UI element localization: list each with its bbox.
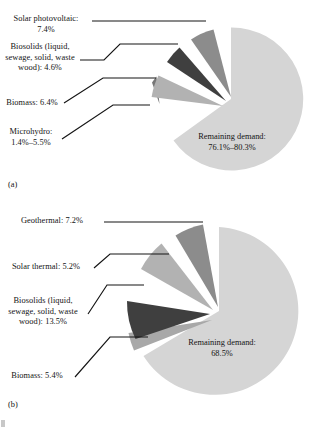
label-b-biomass: Biomass: 5.4% [2, 371, 72, 382]
pie-chart-panel-b: Geothermal: 7.2% Solar thermal: 5.2% Bio… [0, 196, 331, 427]
panel-tag-a: (a) [8, 180, 17, 189]
pie-chart-panel-a: Solar photovoltaic: 7.4% Biosolids (liqu… [0, 0, 331, 205]
label-a-remaining-demand: Remaining demand: 76.1%–80.3% [179, 132, 285, 153]
label-a-microhydro: Microhydro: 1.4%–5.5% [2, 127, 60, 148]
scan-artifact [1, 420, 5, 427]
panel-tag-b: (b) [8, 400, 18, 409]
label-b-geothermal: Geothermal: 7.2% [2, 216, 102, 227]
label-b-remaining-demand: Remaining demand: 68.5% [168, 338, 276, 359]
label-a-biomass: Biomass: 6.4% [2, 98, 62, 109]
label-a-solar-photovoltaic: Solar photovoltaic: 7.4% [2, 14, 90, 35]
label-b-biosolids: Biosolids (liquid, sewage, solid, waste … [2, 296, 84, 328]
label-a-biosolids: Biosolids (liquid, sewage, solid, waste … [2, 42, 78, 74]
leader-lines-a [62, 21, 206, 139]
label-b-solar-thermal: Solar thermal: 5.2% [2, 262, 90, 273]
